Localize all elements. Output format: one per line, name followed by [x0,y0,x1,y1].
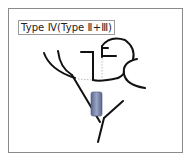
dotted-connector-h [78,79,93,80]
right-hook [118,72,124,78]
right-curl [124,59,145,88]
distal-duct-branch [104,101,123,118]
stent-icon [91,92,102,116]
biliary-tree-diagram [0,0,193,161]
